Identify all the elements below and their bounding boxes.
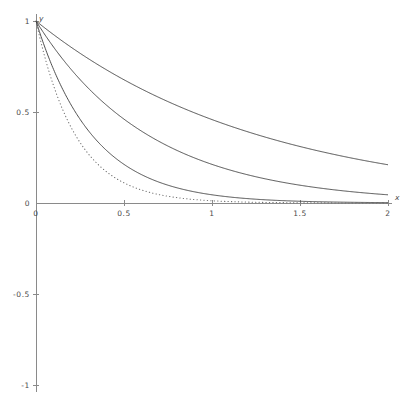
x-tick-label: 1	[209, 209, 214, 218]
data-curve-curve-2	[36, 21, 388, 195]
x-tick-label: 0.5	[117, 209, 131, 218]
x-tick-label: 1.5	[293, 209, 307, 218]
data-curve-curve-4	[36, 21, 388, 203]
plot-canvas: 00.511.5210.50-0.5-1yx	[0, 0, 410, 403]
y-tick-label: 0	[25, 199, 30, 208]
y-tick-label: -0.5	[13, 290, 30, 299]
y-tick-label: 1	[25, 17, 30, 26]
y-tick-label: -1	[21, 381, 30, 390]
exponential-decay-plot: 00.511.5210.50-0.5-1yx	[0, 0, 410, 403]
y-axis-name-label: y	[38, 14, 44, 23]
x-axis-name-label: x	[394, 193, 400, 202]
data-curve-curve-1	[36, 21, 388, 165]
y-tick-label: 0.5	[16, 108, 30, 117]
curves-group	[36, 21, 388, 203]
x-tick-label: 0	[33, 209, 38, 218]
x-tick-label: 2	[385, 209, 390, 218]
data-curve-curve-3	[36, 21, 388, 203]
